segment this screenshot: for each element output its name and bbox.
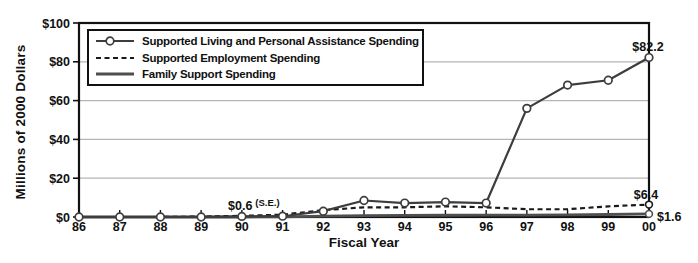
legend-label: Supported Employment Spending <box>142 52 320 64</box>
data-point-marker <box>319 207 327 215</box>
y-tick-label: $60 <box>49 94 70 108</box>
y-tick-label: $80 <box>49 55 70 69</box>
dashed-line-icon <box>95 52 135 64</box>
x-tick-label: 00 <box>642 220 656 234</box>
legend-item-family-support: Family Support Spending <box>95 66 416 82</box>
data-point-marker <box>401 199 409 207</box>
y-tick-label: $100 <box>42 17 70 31</box>
annotation-value-label: $1.6 <box>657 210 681 224</box>
y-tick-label: $0 <box>56 211 70 225</box>
data-point-marker <box>442 198 450 206</box>
y-tick-label: $20 <box>49 172 70 186</box>
spending-trend-chart-figure: Millions of 2000 Dollars $0$20$40$60$80$… <box>0 0 698 263</box>
x-tick-label: 93 <box>357 220 371 234</box>
data-point-marker <box>75 213 83 221</box>
data-point-marker <box>360 197 368 205</box>
legend-item-supported-employment: Supported Employment Spending <box>95 50 416 66</box>
data-point-marker <box>197 213 205 221</box>
x-tick-label: 97 <box>520 220 534 234</box>
end-point-marker <box>646 210 653 217</box>
data-point-marker <box>116 213 124 221</box>
y-axis-title: Millions of 2000 Dollars <box>13 22 33 222</box>
data-point-marker <box>604 76 612 84</box>
annotation-value-label: $6.4 <box>634 188 658 202</box>
annotation-value-label: $0.6(S.E.) <box>228 197 280 214</box>
data-point-marker <box>157 213 165 221</box>
x-tick-label: 89 <box>194 220 208 234</box>
data-point-marker <box>523 105 531 113</box>
data-point-marker <box>279 212 287 220</box>
x-tick-label: 86 <box>72 220 86 234</box>
x-tick-label: 98 <box>561 220 575 234</box>
legend-item-supported-living: Supported Living and Personal Assistance… <box>95 33 416 49</box>
x-tick-label: 91 <box>276 220 290 234</box>
x-tick-label: 96 <box>479 220 493 234</box>
x-axis-title: Fiscal Year <box>329 235 400 250</box>
data-point-marker <box>482 199 490 207</box>
y-tick-label: $40 <box>49 133 70 147</box>
data-point-marker <box>238 213 246 221</box>
legend-label: Supported Living and Personal Assistance… <box>142 35 419 47</box>
x-tick-label: 90 <box>235 220 249 234</box>
chart-legend: Supported Living and Personal Assistance… <box>87 29 424 86</box>
legend-label: Family Support Spending <box>142 68 276 80</box>
data-point-marker <box>564 81 572 89</box>
end-point-marker <box>646 201 653 208</box>
line-with-circle-marker-icon <box>95 35 135 47</box>
x-tick-label: 95 <box>438 220 452 234</box>
annotation-value-label: $82.2 <box>632 40 663 54</box>
x-tick-label: 94 <box>398 220 412 234</box>
x-tick-label: 99 <box>601 220 615 234</box>
x-tick-label: 87 <box>113 220 127 234</box>
x-tick-label: 92 <box>316 220 330 234</box>
x-tick-label: 88 <box>153 220 167 234</box>
solid-line-icon <box>95 68 135 80</box>
data-point-marker <box>645 54 653 62</box>
